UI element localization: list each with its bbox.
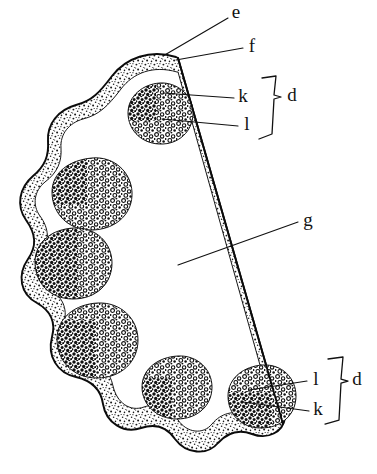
label-k-bottom: k bbox=[313, 398, 323, 419]
label-l-bottom: l bbox=[313, 368, 318, 389]
label-l-top: l bbox=[244, 113, 249, 134]
label-d-bottom: d bbox=[352, 368, 362, 389]
anatomical-diagram: e f k l d g l k d bbox=[0, 0, 377, 474]
label-e: e bbox=[232, 1, 240, 22]
label-g: g bbox=[303, 209, 313, 230]
label-f: f bbox=[249, 35, 256, 56]
label-k-top: k bbox=[238, 85, 248, 106]
label-d-top: d bbox=[287, 84, 297, 105]
figure-root: e f k l d g l k d bbox=[0, 0, 377, 474]
